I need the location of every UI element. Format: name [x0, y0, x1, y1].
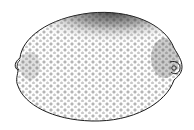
shell-illustration: [0, 0, 194, 130]
shell-body: [0, 0, 194, 130]
